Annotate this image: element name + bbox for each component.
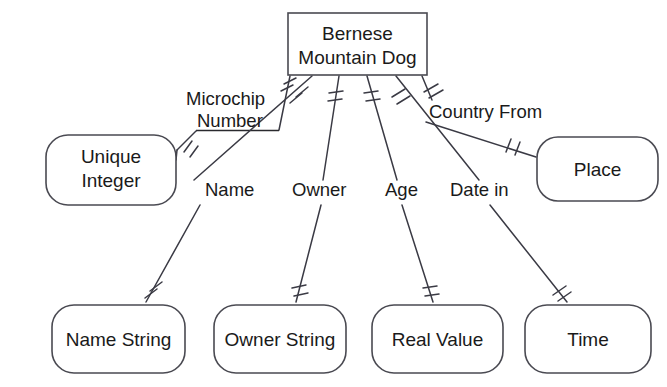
- value-box-place[interactable]: Place: [537, 137, 658, 201]
- value-box-name-string[interactable]: Name String: [52, 305, 185, 373]
- owner-string-label: Owner String: [225, 329, 336, 350]
- owner-tick-d: [294, 293, 308, 296]
- owner-line-lower: [296, 205, 321, 302]
- name-string-label: Name String: [66, 329, 172, 350]
- age-tick-c: [423, 286, 437, 288]
- relationship-label-age[interactable]: Age: [385, 179, 418, 200]
- date-tick-a: [392, 89, 405, 97]
- age-tick-d: [425, 294, 439, 296]
- country-line-lower: [426, 122, 536, 157]
- age-tick-b: [366, 99, 380, 101]
- er-diagram-canvas: Bernese Mountain Dog Unique Integer Plac…: [0, 0, 667, 387]
- unique-integer-line1: Unique: [81, 146, 141, 167]
- country-tick-b: [429, 90, 443, 98]
- er-diagram: Bernese Mountain Dog Unique Integer Plac…: [0, 0, 667, 387]
- value-box-time[interactable]: Time: [525, 305, 651, 373]
- microchip-line-lower: [177, 131, 196, 150]
- relationship-label-owner[interactable]: Owner: [292, 179, 347, 200]
- date-line-upper: [396, 76, 479, 180]
- value-box-owner-string[interactable]: Owner String: [214, 305, 346, 373]
- value-box-unique-integer[interactable]: Unique Integer: [46, 135, 176, 205]
- relationship-label-country-from[interactable]: Country From: [429, 101, 542, 122]
- microchip-label-line1: Microchip: [186, 88, 265, 109]
- time-label: Time: [567, 329, 609, 350]
- relationship-label-date-in[interactable]: Date in: [450, 179, 509, 200]
- unique-integer-line2: Integer: [81, 170, 141, 191]
- relationship-label-name[interactable]: Name: [205, 179, 254, 200]
- age-tick-a: [364, 91, 378, 93]
- relationship-label-microchip-number[interactable]: Microchip Number: [186, 88, 265, 131]
- microchip-tick-d: [190, 146, 198, 157]
- real-value-label: Real Value: [392, 329, 484, 350]
- entity-bernese-line2: Mountain Dog: [298, 47, 416, 68]
- date-tick-b: [397, 96, 410, 104]
- entity-bernese-line1: Bernese: [322, 23, 393, 44]
- owner-tick-b: [328, 99, 342, 101]
- place-label: Place: [574, 159, 622, 180]
- country-tick-c: [506, 139, 511, 152]
- value-box-real-value[interactable]: Real Value: [372, 305, 503, 373]
- owner-tick-a: [329, 91, 343, 93]
- date-line-lower: [490, 205, 567, 302]
- microchip-label-line2: Number: [197, 110, 263, 131]
- country-tick-d: [515, 142, 520, 155]
- entity-bernese-mountain-dog[interactable]: Bernese Mountain Dog: [288, 13, 427, 75]
